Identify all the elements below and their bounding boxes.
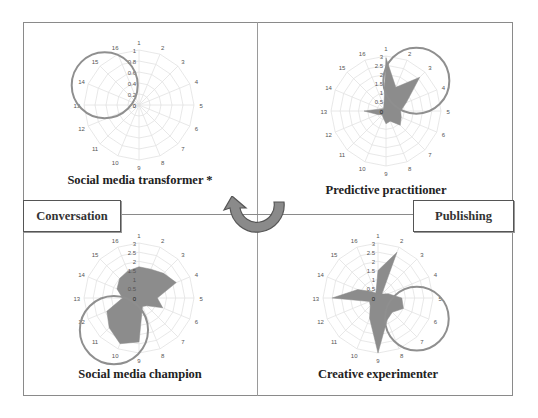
axis-label: 10 <box>359 166 366 172</box>
axis-label: 7 <box>181 146 185 152</box>
axis-label: 11 <box>92 146 99 152</box>
axis-label: 9 <box>137 165 141 171</box>
publishing-label: Publishing <box>413 200 514 232</box>
axis-label: 13 <box>321 109 328 115</box>
axis-label: 13 <box>313 296 320 302</box>
radar-chart-social-media-champion: 1234567891011121314151600.511.522.53 <box>59 218 219 378</box>
axis-label: 11 <box>92 339 99 345</box>
axis-label: 4 <box>442 85 446 91</box>
axis-label: 3 <box>420 252 424 258</box>
axis-label: 3 <box>181 252 185 258</box>
radar-chart-predictive-practitioner: 1234567891011121314151600.511.522.53 <box>306 31 466 191</box>
axis-label: 6 <box>442 132 446 138</box>
axis-label: 10 <box>112 353 119 359</box>
radial-tick-label: 1.5 <box>375 81 384 87</box>
axis-label: 10 <box>351 353 358 359</box>
axis-label: 16 <box>351 238 358 244</box>
axis-label: 10 <box>112 160 119 166</box>
axis-label: 8 <box>161 353 165 359</box>
axis-label: 5 <box>199 296 203 302</box>
title-social-media-champion: Social media champion <box>78 367 202 382</box>
title-social-media-transformer: Social media transformer * <box>67 173 212 188</box>
radial-tick-label: 0.4 <box>128 81 137 87</box>
title-predictive-practitioner: Predictive practitioner <box>326 183 447 198</box>
axis-label: 14 <box>78 79 85 85</box>
axis-label: 2 <box>161 45 165 51</box>
axis-label: 2 <box>161 238 165 244</box>
axis-label: 6 <box>195 319 199 325</box>
axis-label: 14 <box>317 272 324 278</box>
axis-label: 7 <box>428 152 432 158</box>
axis-label: 9 <box>376 358 380 364</box>
axis-label: 13 <box>74 296 81 302</box>
axis-label: 5 <box>199 103 203 109</box>
data-area <box>107 267 176 344</box>
radial-tick-label: 1.5 <box>367 268 376 274</box>
axis-label: 7 <box>420 339 424 345</box>
radial-tick-label: 2.5 <box>375 63 384 69</box>
axis-label: 8 <box>400 353 404 359</box>
axis-label: 16 <box>112 45 119 51</box>
axis-label: 9 <box>384 171 388 177</box>
axis-label: 6 <box>434 319 438 325</box>
title-creative-experimenter: Creative experimenter <box>318 367 438 382</box>
axis-label: 6 <box>195 126 199 132</box>
axis-label: 11 <box>331 339 338 345</box>
highlight-circle <box>385 287 449 351</box>
axis-label: 9 <box>137 358 141 364</box>
axis-label: 4 <box>195 272 199 278</box>
axis-label: 2 <box>408 51 412 57</box>
axis-label: 14 <box>78 272 85 278</box>
axis-label: 14 <box>325 85 332 91</box>
axis-label: 8 <box>161 160 165 166</box>
axis-label: 8 <box>408 166 412 172</box>
cycle-arrow-icon <box>222 196 288 240</box>
radial-tick-label: 0.5 <box>128 286 137 292</box>
axis-label: 15 <box>339 65 346 71</box>
axis-label: 4 <box>195 79 199 85</box>
axis-label: 1 <box>376 233 380 239</box>
axis-label: 1 <box>137 40 141 46</box>
radial-tick-label: 0.5 <box>367 286 376 292</box>
axis-label: 5 <box>446 109 450 115</box>
axis-label: 15 <box>92 59 99 65</box>
axis-label: 1 <box>384 46 388 52</box>
axis-label: 16 <box>112 238 119 244</box>
radar-chart-creative-experimenter: 1234567891011121314151600.511.522.53 <box>298 218 458 378</box>
radial-tick-label: 2.5 <box>128 250 137 256</box>
axis-label: 11 <box>339 152 346 158</box>
axis-label: 16 <box>359 51 366 57</box>
axis-label: 12 <box>78 126 85 132</box>
axis-label: 12 <box>325 132 332 138</box>
axis-label: 3 <box>428 65 432 71</box>
diagram-canvas: 1234567891011121314151600.20.40.60.81 12… <box>0 0 538 418</box>
radial-tick-label: 2.5 <box>367 250 376 256</box>
axis-label: 2 <box>400 238 404 244</box>
radial-tick-label: 1.5 <box>128 268 137 274</box>
radar-chart-social-media-transformer: 1234567891011121314151600.20.40.60.81 <box>59 25 219 185</box>
axis-label: 1 <box>137 233 141 239</box>
conversation-label: Conversation <box>23 200 121 232</box>
axis-label: 4 <box>434 272 438 278</box>
axis-label: 3 <box>181 59 185 65</box>
axis-label: 15 <box>92 252 99 258</box>
axis-label: 7 <box>181 339 185 345</box>
axis-label: 12 <box>317 319 324 325</box>
axis-label: 15 <box>331 252 338 258</box>
radial-tick-label: 0.5 <box>375 99 384 105</box>
